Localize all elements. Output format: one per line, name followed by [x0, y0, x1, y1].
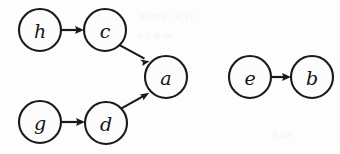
- node-b[interactable]: b: [291, 56, 333, 98]
- edge-d-to-a: [122, 93, 150, 109]
- edge-c-to-a-line: [120, 45, 145, 59]
- node-e-label: e: [244, 67, 255, 89]
- graph-svg: h c a g d e: [0, 0, 340, 154]
- node-d-label: d: [100, 113, 112, 135]
- node-g-label: g: [34, 112, 46, 134]
- edge-c-to-a: [120, 45, 150, 66]
- node-e[interactable]: e: [229, 56, 271, 98]
- node-h-label: h: [34, 20, 46, 42]
- edge-g-to-d: [61, 118, 85, 126]
- node-d[interactable]: d: [85, 102, 127, 144]
- node-c[interactable]: c: [84, 9, 126, 51]
- edge-h-to-c: [61, 26, 84, 34]
- node-c-label: c: [100, 20, 111, 42]
- edge-d-to-a-line: [122, 96, 145, 109]
- node-a[interactable]: a: [145, 56, 187, 98]
- node-b-label: b: [306, 67, 318, 89]
- edge-e-to-b: [271, 73, 291, 81]
- node-g[interactable]: g: [19, 101, 61, 143]
- node-a-label: a: [160, 67, 171, 89]
- diagram-canvas: h c a g d e: [0, 0, 340, 154]
- node-h[interactable]: h: [19, 9, 61, 51]
